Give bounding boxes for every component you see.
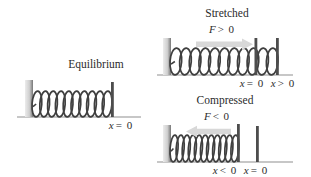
compressed-title: Compressed [175,94,275,107]
compressed-force-rest: < 0 [213,110,230,122]
compressed-axis-xneg-var: x [213,164,218,176]
compressed-axis-x0-rest: = 0 [251,164,268,176]
compressed-axis-x0-var: x [244,164,249,176]
compressed-axis-label-x0: x= 0 [237,164,275,177]
compressed-marker-bar-xneg [237,124,240,162]
stretched-axis-xpos-rest: > 0 [278,77,295,89]
equilibrium-axis-var: x [109,119,114,131]
stretched-force-label: F> 0 [182,23,262,36]
stretched-spring [169,48,279,76]
stretched-axis-xpos-var: x [271,77,276,89]
compressed-axis-xneg-rest: < 0 [220,164,237,176]
stretched-force-var: F [209,23,216,35]
compressed-force-var: F [204,110,211,122]
stretched-marker-bar-xpos [276,38,279,75]
stretched-marker-bar-x0 [255,38,258,75]
spring-states-figure: Equilibrium x= 0 Stretched F> 0 x= 0 x> … [0,0,311,177]
equilibrium-axis-rest: = 0 [116,119,133,131]
stretched-force-rest: > 0 [218,23,235,35]
stretched-axis-label-xpos: x> 0 [264,77,302,90]
compressed-force-label: F< 0 [177,110,257,123]
equilibrium-marker-bar-x0 [111,82,114,117]
stretched-axis-x0-rest: = 0 [247,77,264,89]
stretched-axis-x0-var: x [240,77,245,89]
compressed-spring [169,135,240,162]
stretched-title: Stretched [177,7,277,20]
equilibrium-spring [31,91,113,118]
compressed-marker-bar-x0 [256,126,259,162]
equilibrium-title: Equilibrium [46,58,146,71]
equilibrium-axis-label: x= 0 [101,119,141,132]
